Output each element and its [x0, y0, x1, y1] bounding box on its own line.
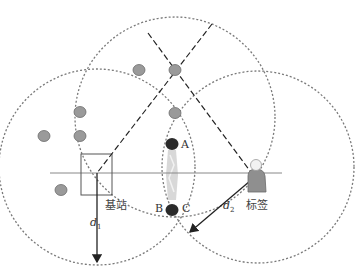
d2-label: d2 — [223, 200, 235, 214]
angle-line-2 — [97, 24, 212, 173]
base-station-label: 基站 — [105, 200, 127, 211]
diagram-canvas — [0, 0, 359, 278]
angle-line-1 — [148, 33, 253, 175]
label-c: C — [182, 203, 190, 214]
d2-arrow — [190, 181, 250, 232]
label-b: B — [155, 203, 163, 214]
intersection-lens — [166, 150, 178, 200]
gray-nodes — [38, 65, 181, 196]
tag-label: 标签 — [246, 200, 268, 211]
d1-label: d1 — [90, 217, 102, 231]
point-a — [166, 138, 179, 150]
point-c — [166, 204, 179, 216]
label-a: A — [181, 139, 189, 150]
